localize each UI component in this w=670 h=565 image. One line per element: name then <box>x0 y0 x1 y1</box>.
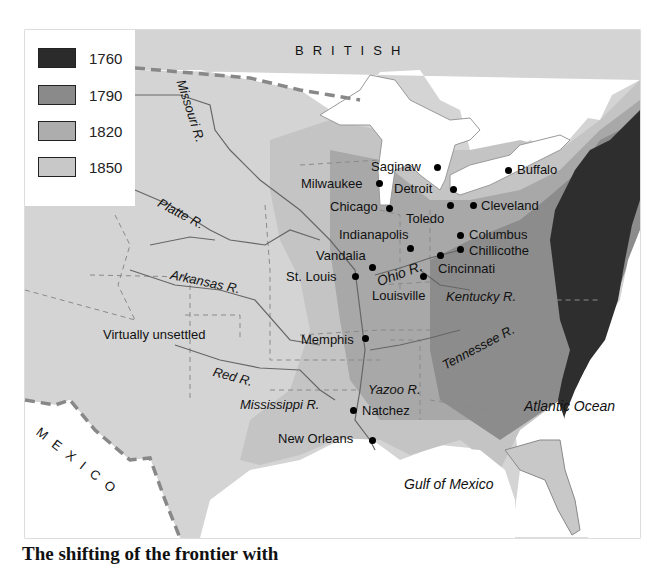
city-label-chicago: Chicago <box>330 200 378 213</box>
city-dot-milwaukee <box>376 180 383 187</box>
label-kentucky-river: Kentucky R. <box>446 290 516 303</box>
legend-swatch <box>38 48 76 68</box>
label-british: BRITISH <box>295 44 409 57</box>
city-dot-chicago <box>386 205 393 212</box>
city-dot-cincinnati <box>437 252 444 259</box>
label-virtually-unsettled: Virtually unsettled <box>103 328 205 341</box>
legend-label: 1820 <box>89 123 122 140</box>
city-label-detroit: Detroit <box>394 182 432 195</box>
legend: 1760 1790 1820 1850 <box>25 30 135 206</box>
legend-item-1790: 1790 <box>38 84 122 106</box>
label-atlantic-ocean: Atlantic Ocean <box>524 399 615 413</box>
city-dot-vandalia <box>369 264 376 271</box>
legend-label: 1850 <box>89 159 122 176</box>
city-dot-new-orleans <box>369 437 376 444</box>
city-label-columbus: Columbus <box>469 228 528 241</box>
legend-label: 1790 <box>89 87 122 104</box>
city-label-saginaw: Saginaw <box>371 160 421 173</box>
city-dot-columbus <box>457 232 464 239</box>
city-label-vandalia: Vandalia <box>316 249 366 262</box>
legend-swatch <box>38 85 76 105</box>
city-dot-buffalo <box>505 167 512 174</box>
legend-item-1850: 1850 <box>38 156 122 178</box>
legend-item-1760: 1760 <box>38 47 122 69</box>
city-label-buffalo: Buffalo <box>517 163 557 176</box>
city-dot-detroit <box>450 186 457 193</box>
legend-swatch <box>38 121 76 141</box>
city-dot-cleveland <box>470 202 477 209</box>
city-label-new-orleans: New Orleans <box>278 432 353 445</box>
figure-caption: The shifting of the frontier with <box>22 543 278 565</box>
city-label-memphis: Memphis <box>301 333 354 346</box>
label-mississippi-river: Mississippi R. <box>240 398 319 411</box>
city-label-st-louis: St. Louis <box>286 270 337 283</box>
city-dot-toledo <box>447 202 454 209</box>
city-dot-chillicothe <box>457 246 464 253</box>
city-label-milwaukee: Milwaukee <box>301 177 362 190</box>
label-yazoo-river: Yazoo R. <box>368 383 421 396</box>
label-gulf-of-mexico: Gulf of Mexico <box>404 477 493 491</box>
city-label-cleveland: Cleveland <box>481 199 539 212</box>
legend-swatch <box>38 157 76 177</box>
legend-item-1820: 1820 <box>38 120 122 142</box>
legend-label: 1760 <box>89 50 122 67</box>
city-label-cincinnati: Cincinnati <box>438 262 495 275</box>
city-dot-saginaw <box>434 164 441 171</box>
city-label-natchez: Natchez <box>362 404 410 417</box>
city-dot-st-louis <box>352 273 359 280</box>
city-label-louisville: Louisville <box>372 289 425 302</box>
city-label-toledo: Toledo <box>406 212 444 225</box>
city-dot-louisville <box>420 273 427 280</box>
city-label-chillicothe: Chillicothe <box>469 244 529 257</box>
city-dot-memphis <box>362 335 369 342</box>
city-label-indianapolis: Indianapolis <box>339 228 408 241</box>
city-dot-natchez <box>350 407 357 414</box>
city-dot-indianapolis <box>407 245 414 252</box>
